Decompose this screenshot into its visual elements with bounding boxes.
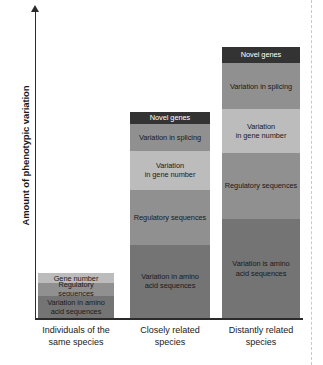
- bar-segment: Regulatory sequences: [38, 283, 114, 295]
- bar-segment-label: Novel genes: [150, 113, 191, 122]
- bar-segment-label: Regulatory sequences: [225, 181, 298, 190]
- x-axis-category-label: Closely relatedspecies: [118, 325, 222, 348]
- x-axis-line: [35, 318, 303, 320]
- bar-segment-label: Variation in aminoacid sequences: [47, 298, 105, 316]
- y-axis-arrowhead-icon: [31, 5, 39, 12]
- bar-0: Gene numberRegulatory sequencesVariation…: [38, 273, 114, 318]
- bar-segment: Novel genes: [130, 112, 210, 124]
- right-margin-dashed-rule: [311, 0, 312, 365]
- bar-segment: Variation in aminoacid sequences: [38, 296, 114, 318]
- bar-2: Novel genesVariation in splicingVariatio…: [222, 47, 300, 318]
- bar-segment-label: Variationin gene number: [236, 122, 287, 140]
- bar-segment: Variation is aminoacid sequences: [222, 219, 300, 318]
- bar-segment: Variation in splicing: [130, 124, 210, 152]
- bar-segment: Regulatory sequences: [130, 190, 210, 245]
- bar-segment: Variationin gene number: [222, 109, 300, 153]
- bar-1: Novel genesVariation in splicingVariatio…: [130, 112, 210, 318]
- bar-segment-label: Variation is aminoacid sequences: [232, 259, 289, 277]
- bar-segment: Variation in splicing: [222, 63, 300, 109]
- y-axis-title: Amount of phenotypic variation: [20, 56, 31, 256]
- bar-segment-label: Variation in aminoacid sequences: [141, 272, 199, 290]
- bar-segment-label: Variation in splicing: [139, 133, 201, 142]
- x-axis-category-label: Distantly relatedspecies: [210, 325, 312, 348]
- bar-segment-label: Variationin gene number: [145, 161, 196, 179]
- y-axis-line: [35, 10, 36, 318]
- bar-segment: Novel genes: [222, 47, 300, 63]
- x-axis-category-label: Individuals of thesame species: [26, 325, 126, 348]
- bar-segment-label: Variation in splicing: [230, 82, 292, 91]
- bar-segment-label: Regulatory sequences: [134, 213, 207, 222]
- bar-segment: Variation in aminoacid sequences: [130, 245, 210, 318]
- stacked-bar-chart: Amount of phenotypic variation Gene numb…: [0, 0, 323, 365]
- bar-segment-label: Novel genes: [241, 50, 282, 59]
- bar-segment: Regulatory sequences: [222, 153, 300, 219]
- bar-segment: Variationin gene number: [130, 151, 210, 189]
